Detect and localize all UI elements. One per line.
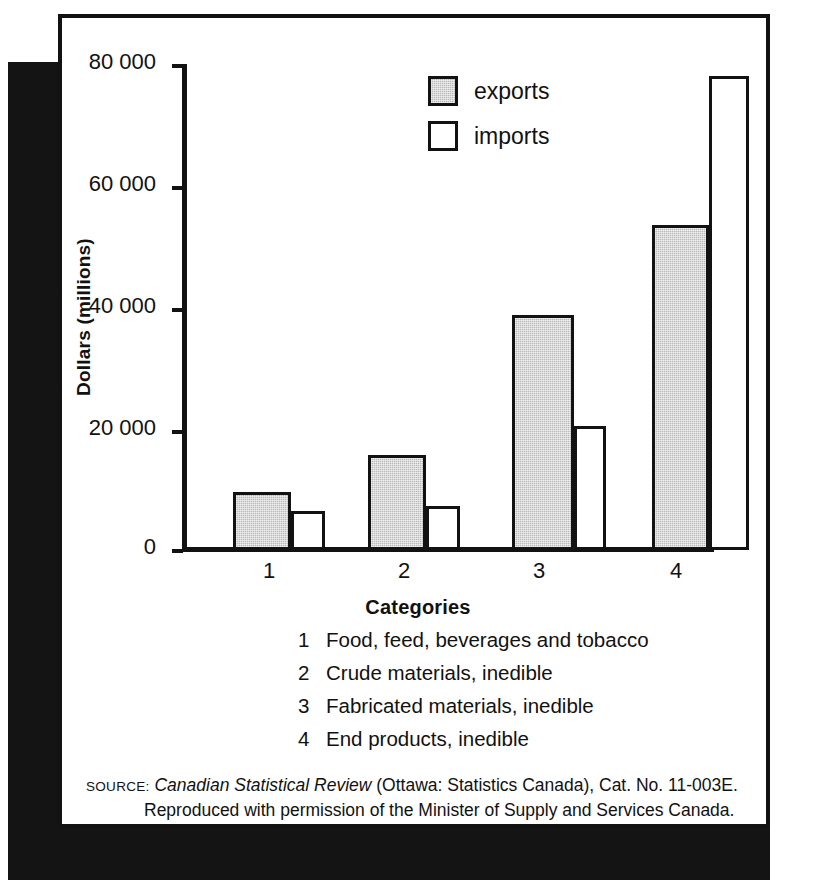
categories-key: Categories 1 Food, feed, beverages and t…: [62, 596, 774, 760]
source-rest: (Ottawa: Statistics Canada), Cat. No. 11…: [371, 775, 737, 795]
bar-exports-category-3: [512, 315, 574, 550]
bar-imports-category-3: [574, 426, 606, 550]
y-tick-label-20000: 20 000: [89, 417, 156, 439]
x-tick-label-2: 2: [384, 558, 424, 584]
legend-label-exports: exports: [474, 78, 549, 105]
source-permission-line: Reproduced with permission of the Minist…: [86, 798, 758, 823]
y-axis-line: [182, 64, 187, 552]
bar-exports-category-1: [233, 492, 291, 550]
y-tick-label-60000: 60 000: [89, 173, 156, 195]
category-text-2: Crude materials, inedible: [326, 661, 553, 685]
category-number-2: 2: [298, 661, 326, 685]
y-tick-label-0: 0: [144, 536, 156, 558]
x-tick-label-1: 1: [249, 558, 289, 584]
category-text-4: End products, inedible: [326, 727, 529, 751]
legend-swatch-exports-icon: [428, 76, 458, 106]
bar-exports-category-2: [368, 455, 426, 550]
figure-frame: Dollars (millions) 80 000 60 000 40 000 …: [58, 14, 770, 828]
source-label: SOURCE:: [86, 779, 150, 794]
category-item-2: 2 Crude materials, inedible: [298, 661, 774, 685]
category-item-3: 3 Fabricated materials, inedible: [298, 694, 774, 718]
legend-item-imports: imports: [428, 121, 549, 151]
bar-imports-category-1: [291, 511, 325, 550]
category-item-1: 1 Food, feed, beverages and tobacco: [298, 628, 774, 652]
source-publication: Canadian Statistical Review: [154, 775, 371, 795]
x-tick-label-4: 4: [656, 558, 696, 584]
x-tick-label-3: 3: [519, 558, 559, 584]
bar-imports-category-2: [426, 506, 460, 550]
source-note: SOURCE: Canadian Statistical Review (Ott…: [86, 773, 758, 824]
category-text-3: Fabricated materials, inedible: [326, 694, 594, 718]
y-tick-label-40000: 40 000: [89, 295, 156, 317]
y-tick-label-80000: 80 000: [89, 51, 156, 73]
legend-item-exports: exports: [428, 76, 549, 106]
bar-imports-category-4: [709, 76, 749, 550]
category-number-3: 3: [298, 694, 326, 718]
category-number-1: 1: [298, 628, 326, 652]
categories-list: 1 Food, feed, beverages and tobacco 2 Cr…: [62, 628, 774, 751]
bar-exports-category-4: [652, 225, 709, 550]
category-text-1: Food, feed, beverages and tobacco: [326, 628, 649, 652]
category-number-4: 4: [298, 727, 326, 751]
category-item-4: 4 End products, inedible: [298, 727, 774, 751]
legend-label-imports: imports: [474, 123, 549, 150]
chart-legend: exports imports: [428, 76, 549, 166]
legend-swatch-imports-icon: [428, 121, 458, 151]
categories-title: Categories: [62, 596, 774, 619]
